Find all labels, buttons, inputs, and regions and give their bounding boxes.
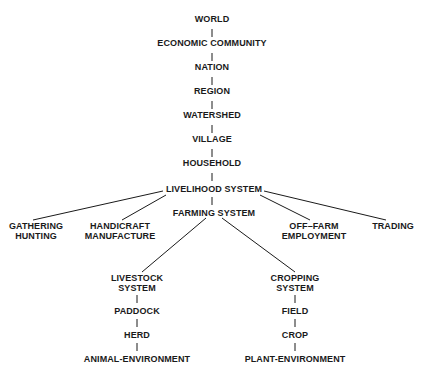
node-household: HOUSEHOLD — [183, 158, 241, 168]
node-animal-environment: ANIMAL-ENVIRONMENT — [84, 354, 190, 364]
node-paddock: PADDOCK — [114, 306, 160, 316]
node-world: WORLD — [195, 14, 230, 24]
label-line-1: GATHERING — [9, 221, 63, 231]
label-line-1: HANDICRAFT — [85, 221, 156, 231]
node-livestock-system: LIVESTOCK SYSTEM — [111, 273, 163, 293]
node-handicraft-manufacture: HANDICRAFT MANUFACTURE — [85, 221, 156, 241]
node-gathering-hunting: GATHERING HUNTING — [9, 221, 63, 241]
node-herd: HERD — [124, 330, 150, 340]
label-line-2: SYSTEM — [271, 283, 320, 293]
node-cropping-system: CROPPING SYSTEM — [271, 273, 320, 293]
label-line-2: HUNTING — [9, 231, 63, 241]
node-off-farm-employment: OFF–FARM EMPLOYMENT — [282, 221, 347, 241]
node-region: REGION — [194, 86, 230, 96]
label-line-1: OFF–FARM — [282, 221, 347, 231]
label-line-1: CROPPING — [271, 273, 320, 283]
node-village: VILLAGE — [192, 134, 232, 144]
label-line-2: MANUFACTURE — [85, 231, 156, 241]
node-nation: NATION — [195, 62, 229, 72]
node-trading: TRADING — [372, 221, 414, 231]
label-line-2: EMPLOYMENT — [282, 231, 347, 241]
node-crop: CROP — [282, 330, 308, 340]
node-watershed: WATERSHED — [183, 110, 241, 120]
node-field: FIELD — [282, 306, 309, 316]
node-plant-environment: PLANT-ENVIRONMENT — [245, 354, 346, 364]
node-economic-community: ECONOMIC COMMUNITY — [157, 38, 266, 48]
node-livelihood-system: LIVELIHOOD SYSTEM — [166, 184, 262, 194]
label-line-2: SYSTEM — [111, 283, 163, 293]
label-line-1: LIVESTOCK — [111, 273, 163, 283]
node-farming-system: FARMING SYSTEM — [173, 208, 255, 218]
